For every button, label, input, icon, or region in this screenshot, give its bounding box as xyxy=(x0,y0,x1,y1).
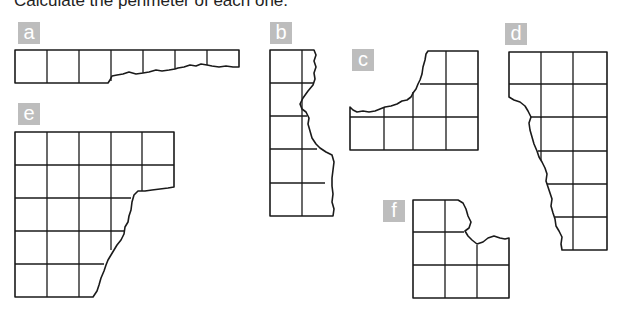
shape-b xyxy=(270,50,334,216)
shape-f xyxy=(413,200,509,298)
shapes-canvas xyxy=(0,0,617,319)
shape-e xyxy=(15,132,174,297)
shape-a xyxy=(15,50,239,83)
shape-c xyxy=(350,51,478,150)
shape-d xyxy=(509,52,607,250)
